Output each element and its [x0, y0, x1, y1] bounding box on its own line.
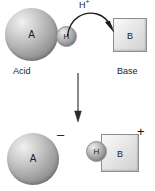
conjugate-acid-proton-circle-h: H — [86, 141, 107, 162]
base-square-label: B — [114, 32, 146, 41]
proton-transfer-label: H+ — [79, 1, 90, 10]
conjugate-base-sphere-a: A — [7, 133, 59, 185]
vertical-reaction-arrow — [75, 73, 82, 122]
acid-base-proton-transfer-diagram: A H Acid H+ B Base A – B H + — [0, 0, 155, 191]
acid-sphere-label: A — [5, 30, 58, 40]
base-square-b: B — [113, 18, 147, 52]
conjugate-acid-proton-label: H — [87, 148, 106, 156]
acid-caption: Acid — [13, 67, 31, 76]
proton-transfer-charge: + — [86, 0, 90, 5]
acid-proton-circle-h: H — [56, 26, 77, 47]
conjugate-base-sphere-label: A — [7, 154, 59, 164]
acid-sphere-a: A — [5, 8, 58, 61]
base-caption: Base — [117, 67, 138, 76]
acid-proton-label: H — [57, 33, 76, 41]
diagram-stage: A H Acid H+ B Base A – B H + — [0, 0, 155, 191]
conjugate-base-negative-charge: – — [57, 128, 64, 141]
conjugate-acid-square-label: B — [102, 150, 138, 159]
